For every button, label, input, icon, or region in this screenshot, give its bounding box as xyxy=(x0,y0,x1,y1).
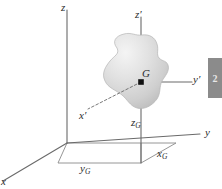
coordinate-label-z-g: zG xyxy=(131,117,141,130)
side-tab-glyph: 2 xyxy=(213,73,218,84)
figure-vector-layer xyxy=(0,0,222,189)
x-axis-line xyxy=(3,143,67,181)
prime-mark-x: ′ xyxy=(84,109,86,121)
subscript-g-z: G xyxy=(135,121,140,130)
rigid-body-shape xyxy=(104,33,169,108)
axis-label-y: y xyxy=(205,127,210,138)
prime-mark-y: ′ xyxy=(198,73,200,85)
axis-label-y-prime: y′ xyxy=(193,74,200,85)
axis-label-x: x xyxy=(1,176,6,187)
coordinate-label-x-g: xG xyxy=(157,148,167,161)
axis-label-z: z xyxy=(61,2,65,13)
prime-mark-z: ′ xyxy=(139,8,141,20)
subscript-g-y: G xyxy=(85,167,90,176)
axis-label-z-prime: z′ xyxy=(135,9,142,20)
coordinate-label-y-g: yG xyxy=(80,163,90,176)
side-page-tab: 2 xyxy=(208,58,222,98)
axis-label-x-prime: x′ xyxy=(79,110,86,121)
y-axis-line xyxy=(67,134,200,143)
subscript-g-x: G xyxy=(162,152,167,161)
figure-canvas: z z′ y y′ x x′ G xG yG zG 2 xyxy=(0,0,222,189)
global-axes xyxy=(3,10,200,181)
centroid-point-marker xyxy=(138,79,144,85)
centroid-label-G: G xyxy=(142,68,150,79)
